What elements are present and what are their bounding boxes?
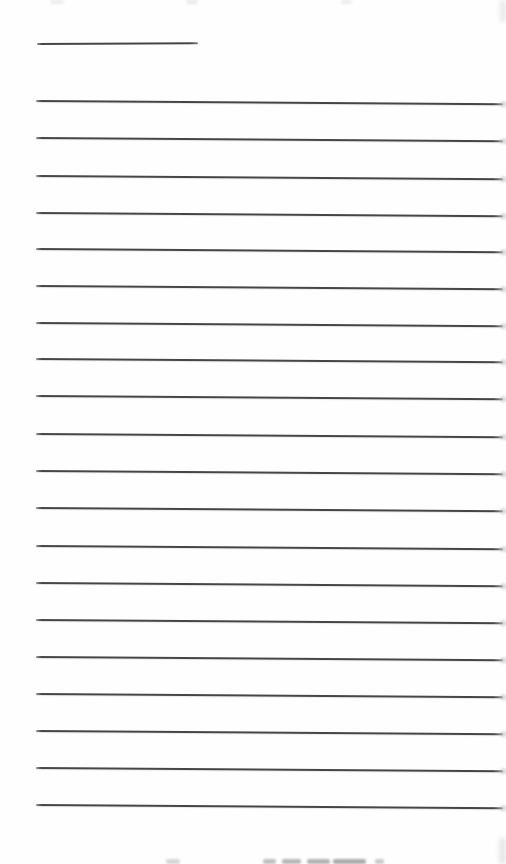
scan-smudge-artifact (186, 0, 198, 4)
ruled-line (36, 285, 503, 290)
scan-smudge-artifact (499, 838, 506, 864)
ruled-line (36, 358, 503, 363)
ruled-line (36, 470, 503, 475)
scan-smudge-artifact (50, 0, 64, 4)
scan-smudge-artifact (375, 859, 384, 864)
ruled-line (36, 619, 503, 624)
ruled-line (36, 433, 503, 438)
ruled-line (36, 100, 503, 105)
header-underline (37, 42, 198, 45)
scan-smudge-artifact (341, 0, 352, 4)
ruled-line (36, 175, 503, 180)
ruled-line (36, 248, 503, 253)
ruled-line (36, 582, 503, 587)
ruled-line (36, 730, 503, 735)
ruled-line (36, 804, 503, 809)
scan-smudge-artifact (307, 859, 330, 864)
scan-smudge-artifact (166, 859, 180, 864)
ruled-line (36, 656, 503, 661)
notebook-page (0, 0, 506, 864)
ruled-line (36, 693, 503, 698)
ruled-line (36, 137, 503, 142)
scan-smudge-artifact (333, 859, 366, 864)
ruled-line (36, 212, 503, 217)
ruled-line (36, 322, 503, 327)
ruled-line (36, 767, 503, 772)
ruled-line (36, 395, 503, 400)
scan-smudge-artifact (263, 859, 276, 864)
scan-smudge-artifact (500, 0, 506, 22)
ruled-line (36, 545, 503, 550)
scan-smudge-artifact (282, 859, 301, 864)
ruled-line (36, 507, 503, 512)
